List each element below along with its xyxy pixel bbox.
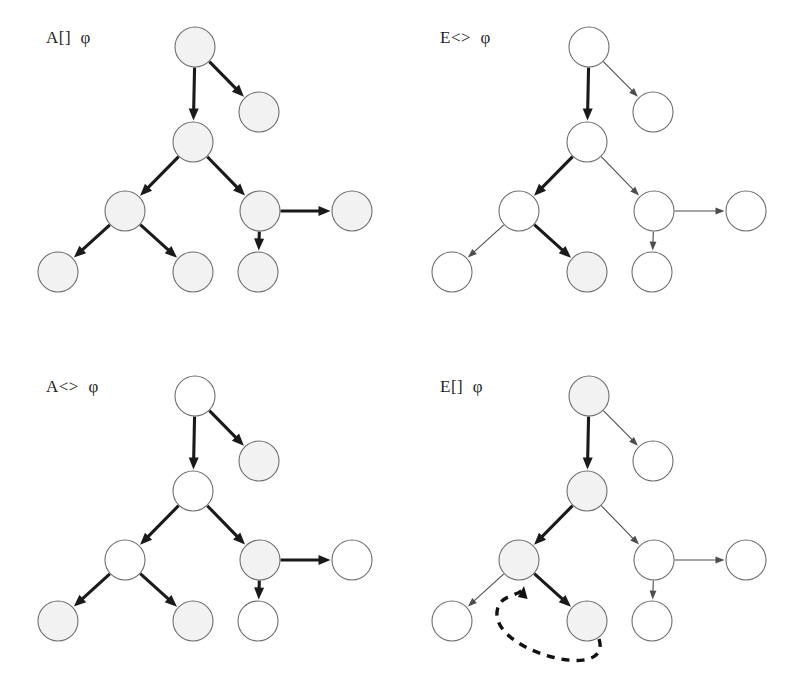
state-node-n7-satisfying[interactable] (332, 191, 372, 231)
arrowhead-icon-root-n1 (583, 108, 593, 120)
arrowhead-icon-root-n1 (583, 457, 593, 469)
transition-edge-root-n1-highlighted (588, 67, 589, 109)
transition-edge-n3-n6-highlighted (140, 574, 169, 600)
state-node-n6-satisfying[interactable] (567, 601, 607, 641)
transition-edge-n1-n4 (601, 506, 633, 539)
state-node-n5-satisfying[interactable] (38, 252, 78, 292)
arrowhead-icon-root-n1 (189, 108, 199, 120)
transition-edge-n3-n6-highlighted (534, 574, 563, 600)
tree-panel-e-diamond: E<> φ (394, 0, 788, 349)
state-node-n8[interactable] (632, 601, 672, 641)
state-node-n5[interactable] (432, 601, 472, 641)
node-layer (38, 376, 372, 641)
arrowhead-icon-root-n1 (189, 457, 199, 469)
arrowhead-icon-n4-n8 (254, 238, 264, 250)
transition-edge-n3-n6-highlighted (534, 225, 563, 251)
state-node-n1[interactable] (567, 122, 607, 162)
arrowhead-icon-n4-n8 (650, 241, 657, 250)
state-node-root[interactable] (175, 376, 215, 416)
tree-panel-a-diamond: A<> φ (0, 349, 394, 698)
state-node-n6-satisfying[interactable] (567, 252, 607, 292)
tree-diagram-a-diamond (0, 349, 394, 698)
state-node-n7[interactable] (726, 191, 766, 231)
panel-label-a-box: A[] φ (46, 28, 91, 48)
state-node-n6-satisfying[interactable] (173, 601, 213, 641)
tree-panel-e-box: E[] φ (394, 349, 788, 698)
node-layer (432, 376, 766, 641)
transition-edge-n1-n3-highlighted (148, 157, 179, 188)
state-node-n1-satisfying[interactable] (567, 471, 607, 511)
tree-diagram-e-diamond (394, 0, 788, 349)
tree-diagram-a-box (0, 0, 394, 349)
state-node-n4[interactable] (634, 191, 674, 231)
transition-edge-n3-n5 (474, 225, 504, 252)
state-node-n2[interactable] (633, 92, 673, 132)
arrowhead-icon-n4-n8 (254, 587, 264, 599)
state-node-n1-satisfying[interactable] (173, 122, 213, 162)
state-node-n7[interactable] (726, 540, 766, 580)
arrowhead-icon-n4-n7 (716, 557, 725, 564)
transition-edge-root-n1-highlighted (194, 416, 195, 458)
state-node-n7[interactable] (332, 540, 372, 580)
transition-edge-n3-n5 (474, 574, 504, 601)
node-layer (38, 27, 372, 292)
transition-edge-n1-n4-highlighted (207, 157, 237, 188)
state-node-n1[interactable] (173, 471, 213, 511)
arrowhead-icon-n4-n7 (716, 208, 725, 215)
state-node-n5[interactable] (432, 252, 472, 292)
transition-edge-n1-n4 (601, 157, 633, 190)
state-node-n4-satisfying[interactable] (240, 191, 280, 231)
state-node-n5-satisfying[interactable] (38, 601, 78, 641)
arrowhead-icon-n4-n7 (319, 206, 331, 216)
state-node-root-satisfying[interactable] (175, 27, 215, 67)
arrowhead-icon-n4-n8 (650, 590, 657, 599)
state-node-n3-satisfying[interactable] (499, 540, 539, 580)
transition-edge-n3-n5-highlighted (82, 574, 110, 599)
ctl-tree-figure: A[] φE<> φA<> φE[] φ (0, 0, 788, 699)
state-node-root-satisfying[interactable] (569, 376, 609, 416)
panel-label-e-diamond: E<> φ (440, 28, 491, 48)
transition-edge-root-n1-highlighted (588, 416, 589, 458)
state-node-n8[interactable] (238, 601, 278, 641)
transition-edge-n1-n3-highlighted (148, 506, 179, 537)
transition-edge-n3-n5-highlighted (82, 225, 110, 250)
state-node-n3-satisfying[interactable] (105, 191, 145, 231)
state-node-root[interactable] (569, 27, 609, 67)
state-node-n2-satisfying[interactable] (239, 92, 279, 132)
tree-panel-a-box: A[] φ (0, 0, 394, 349)
transition-edge-n3-n6-highlighted (140, 225, 169, 251)
transition-edge-n1-n3-highlighted (542, 506, 573, 537)
arrowhead-icon-n4-n7 (319, 555, 331, 565)
transition-edge-n1-n4-highlighted (207, 506, 237, 537)
transition-edge-root-n2-highlighted (209, 411, 236, 438)
state-node-n3[interactable] (105, 540, 145, 580)
state-node-n8[interactable] (632, 252, 672, 292)
node-layer (432, 27, 766, 292)
state-node-n2-satisfying[interactable] (239, 441, 279, 481)
tree-diagram-e-box (394, 349, 788, 698)
transition-edge-root-n1-highlighted (194, 67, 195, 109)
transition-edge-n1-n3-highlighted (542, 157, 573, 188)
state-node-n2[interactable] (633, 441, 673, 481)
transition-edge-root-n2 (603, 62, 632, 91)
panel-label-e-box: E[] φ (440, 377, 483, 397)
state-node-n4-satisfying[interactable] (240, 540, 280, 580)
state-node-n3[interactable] (499, 191, 539, 231)
state-node-n8-satisfying[interactable] (238, 252, 278, 292)
transition-edge-root-n2-highlighted (209, 62, 236, 89)
state-node-n6-satisfying[interactable] (173, 252, 213, 292)
state-node-n4[interactable] (634, 540, 674, 580)
panel-label-a-diamond: A<> φ (46, 377, 99, 397)
transition-edge-root-n2 (603, 411, 632, 440)
